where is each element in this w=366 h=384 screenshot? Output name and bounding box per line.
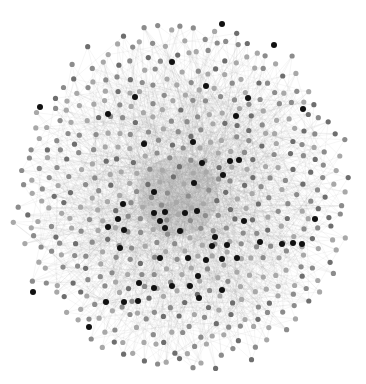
graph-node bbox=[265, 310, 270, 315]
graph-node bbox=[182, 300, 187, 305]
graph-node bbox=[85, 118, 90, 123]
graph-node bbox=[140, 205, 145, 210]
graph-node bbox=[301, 226, 306, 231]
graph-node bbox=[204, 341, 209, 346]
graph-node bbox=[188, 134, 193, 139]
graph-node bbox=[116, 89, 121, 94]
graph-node bbox=[100, 249, 105, 254]
graph-node bbox=[69, 225, 74, 230]
graph-node bbox=[253, 289, 258, 294]
hub-node bbox=[157, 218, 163, 224]
graph-node bbox=[35, 219, 40, 224]
graph-node bbox=[85, 277, 90, 282]
graph-node bbox=[232, 216, 237, 221]
graph-node bbox=[150, 83, 155, 88]
graph-node bbox=[120, 115, 125, 120]
graph-node bbox=[219, 138, 224, 143]
graph-node bbox=[322, 149, 327, 154]
hub-node bbox=[169, 283, 175, 289]
graph-node bbox=[98, 261, 103, 266]
graph-node bbox=[180, 330, 185, 335]
graph-node bbox=[151, 227, 156, 232]
hub-node bbox=[245, 95, 251, 101]
graph-node bbox=[142, 68, 147, 73]
graph-node bbox=[192, 312, 197, 317]
graph-node bbox=[203, 98, 208, 103]
graph-node bbox=[308, 199, 313, 204]
graph-node bbox=[219, 353, 224, 358]
graph-node bbox=[221, 263, 226, 268]
graph-node bbox=[189, 265, 194, 270]
graph-node bbox=[73, 241, 78, 246]
graph-node bbox=[268, 175, 273, 180]
graph-node bbox=[213, 366, 218, 371]
graph-node bbox=[229, 165, 234, 170]
graph-node bbox=[290, 53, 295, 58]
graph-node bbox=[131, 160, 136, 165]
graph-node bbox=[53, 235, 58, 240]
graph-node bbox=[128, 257, 133, 262]
graph-node bbox=[16, 205, 21, 210]
graph-node bbox=[306, 89, 311, 94]
graph-node bbox=[188, 158, 193, 163]
graph-node bbox=[237, 106, 242, 111]
graph-node bbox=[133, 120, 138, 125]
graph-node bbox=[236, 42, 241, 47]
hub-node bbox=[86, 324, 92, 330]
graph-node bbox=[146, 55, 151, 60]
hub-node bbox=[219, 256, 225, 262]
graph-node bbox=[195, 114, 200, 119]
hub-node bbox=[121, 299, 127, 305]
graph-node bbox=[40, 186, 45, 191]
graph-node bbox=[195, 254, 200, 259]
graph-node bbox=[117, 131, 122, 136]
graph-node bbox=[279, 224, 284, 229]
graph-node bbox=[127, 146, 132, 151]
graph-node bbox=[328, 223, 333, 228]
graph-node bbox=[254, 244, 259, 249]
graph-node bbox=[301, 153, 306, 158]
graph-node bbox=[223, 39, 228, 44]
graph-node bbox=[189, 205, 194, 210]
graph-node bbox=[145, 182, 150, 187]
graph-node bbox=[225, 249, 230, 254]
hub-node bbox=[279, 241, 285, 247]
graph-node bbox=[261, 108, 266, 113]
graph-node bbox=[186, 193, 191, 198]
graph-node bbox=[239, 241, 244, 246]
graph-node bbox=[216, 308, 221, 313]
graph-node bbox=[256, 201, 261, 206]
graph-node bbox=[254, 231, 259, 236]
graph-node bbox=[244, 167, 249, 172]
graph-node bbox=[175, 257, 180, 262]
graph-node bbox=[54, 165, 59, 170]
hub-node bbox=[37, 104, 43, 110]
graph-node bbox=[289, 100, 294, 105]
graph-node bbox=[311, 102, 316, 107]
graph-node bbox=[203, 213, 208, 218]
hub-node bbox=[151, 189, 157, 195]
graph-node bbox=[77, 103, 82, 108]
graph-node bbox=[238, 324, 243, 329]
graph-node bbox=[89, 336, 94, 341]
graph-node bbox=[293, 316, 298, 321]
hub-node bbox=[117, 245, 123, 251]
graph-node bbox=[203, 37, 208, 42]
graph-node bbox=[310, 265, 315, 270]
graph-node bbox=[242, 183, 247, 188]
graph-node bbox=[316, 246, 321, 251]
graph-node bbox=[191, 25, 196, 30]
graph-node bbox=[263, 164, 268, 169]
graph-node bbox=[301, 100, 306, 105]
graph-node bbox=[55, 283, 60, 288]
graph-node bbox=[202, 315, 207, 320]
network-graph bbox=[0, 0, 366, 384]
graph-node bbox=[68, 120, 73, 125]
graph-node bbox=[177, 313, 182, 318]
graph-node bbox=[312, 131, 317, 136]
graph-node bbox=[245, 41, 250, 46]
graph-node bbox=[141, 110, 146, 115]
graph-node bbox=[117, 193, 122, 198]
graph-node bbox=[159, 203, 164, 208]
graph-node bbox=[169, 119, 174, 124]
